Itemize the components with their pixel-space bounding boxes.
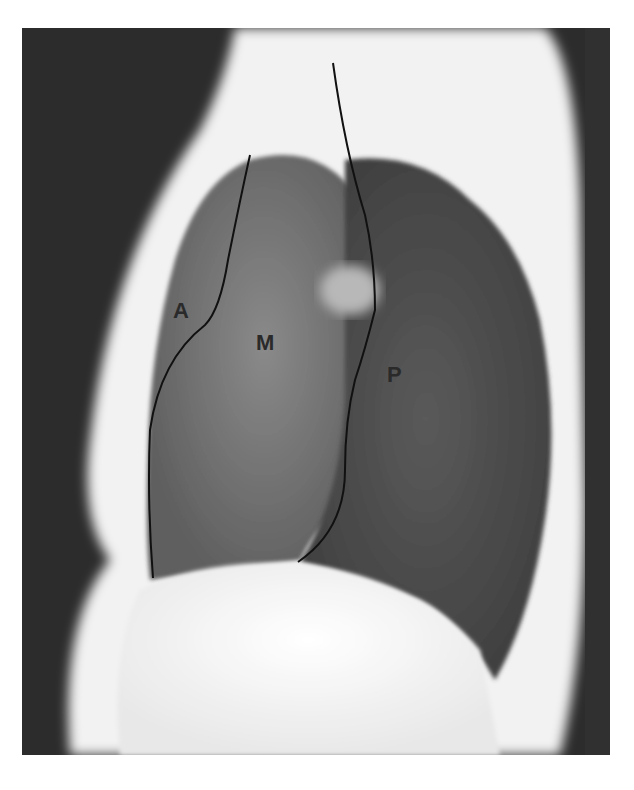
label-anterior: A (173, 298, 189, 324)
label-posterior: P (387, 362, 402, 388)
xray-image (22, 28, 610, 755)
xray-drawing (22, 28, 610, 755)
label-middle: M (256, 330, 274, 356)
